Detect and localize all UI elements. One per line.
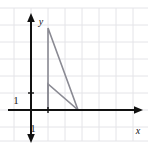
y-axis-arrowhead-up (27, 13, 35, 22)
x-axis-label: x (135, 125, 141, 136)
x-axis-tick-label-1: 1 (30, 122, 36, 134)
grid-horizontal-lines (0, 8, 148, 141)
grid-lines (0, 8, 148, 141)
math-figure-graph: x y 1 1 (0, 0, 148, 147)
coordinate-plane: x y 1 1 (0, 0, 148, 147)
x-axis-arrowhead (134, 106, 143, 114)
y-axis-arrowhead-down (27, 134, 35, 143)
y-axis-tick-label-1: 1 (13, 94, 19, 106)
y-axis-label: y (38, 16, 44, 27)
